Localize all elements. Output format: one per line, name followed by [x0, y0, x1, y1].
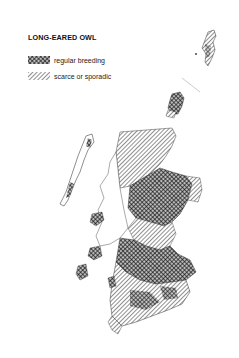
legend-item-scarce: scarce or sporadic: [28, 72, 111, 80]
orkney-islands: [166, 92, 184, 118]
map-title: LONG-EARED OWL: [28, 33, 96, 42]
outer-hebrides: [60, 134, 94, 206]
scotland-mainland: [96, 128, 202, 334]
fair-isle-marker: [182, 78, 200, 92]
legend-item-regular: regular breeding: [28, 56, 105, 64]
legend-label-scarce: scarce or sporadic: [54, 73, 111, 80]
shetland-islands: [195, 30, 216, 66]
map-canvas: [0, 0, 239, 358]
cross-hatch-swatch-icon: [28, 56, 50, 64]
diagonal-hatch-swatch-icon: [28, 72, 50, 80]
legend-label-regular: regular breeding: [54, 57, 105, 64]
